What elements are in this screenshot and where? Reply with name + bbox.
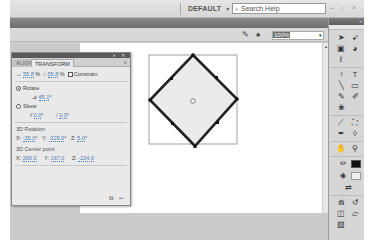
brush-tool-icon[interactable]: ✐ bbox=[349, 92, 361, 102]
selected-diamond-shape[interactable] bbox=[140, 42, 244, 148]
eyedropper-tool-icon[interactable]: ✒ bbox=[335, 129, 347, 139]
3d-center-x-field[interactable]: 269.0 bbox=[23, 155, 37, 162]
3d-center-z-field[interactable]: -224.0 bbox=[78, 155, 94, 162]
bone-tool-icon[interactable]: ⟋ bbox=[335, 118, 347, 128]
divider bbox=[331, 67, 363, 68]
3d-center-row: X: 269.0 Y: 167.0 Z: -224.0 bbox=[16, 155, 94, 161]
zoom-value: 100% bbox=[273, 32, 290, 38]
degree-label: ° bbox=[64, 135, 66, 141]
smooth-icon[interactable]: ↺ bbox=[349, 198, 361, 208]
separator bbox=[180, 3, 181, 15]
paint-bucket-tool-icon[interactable]: ⛶ bbox=[349, 118, 361, 128]
z-label: Z: bbox=[71, 135, 76, 141]
panel-menu-icon[interactable]: ≡ bbox=[124, 59, 127, 65]
lasso-tool-icon[interactable]: ℓ bbox=[335, 55, 347, 65]
3d-rotation-tool-icon[interactable]: ◕ bbox=[349, 44, 361, 54]
straighten-icon[interactable]: ▱ bbox=[349, 209, 361, 219]
3d-rotation-y-field[interactable]: -229.0 bbox=[49, 135, 65, 142]
x-label: X: bbox=[16, 155, 21, 161]
constrain-checkbox[interactable] bbox=[68, 72, 73, 77]
edit-scene-icon[interactable]: ♠ bbox=[256, 30, 260, 39]
scale-row: ↔ 55.8 % ↕ 55.8 % Constrain bbox=[16, 71, 97, 77]
skew-radio[interactable] bbox=[16, 104, 21, 109]
rotate-icon: ⊿ bbox=[32, 94, 37, 100]
chevron-down-icon: ▼ bbox=[225, 6, 230, 12]
tab-transform[interactable]: TRANSFORM bbox=[31, 59, 74, 67]
eraser-tool-icon[interactable]: ◊ bbox=[349, 129, 361, 139]
height-scale-field[interactable]: 55.8 bbox=[48, 71, 59, 78]
y-label: Y: bbox=[42, 135, 47, 141]
degree-label: ° bbox=[41, 112, 43, 118]
zoom-level-select[interactable]: 100% ▾ bbox=[272, 31, 324, 40]
divider bbox=[15, 122, 127, 123]
deco-tool-icon[interactable]: ❀ bbox=[335, 103, 347, 113]
pen-tool-icon[interactable]: ♮ bbox=[335, 70, 347, 80]
degree-label: ° bbox=[35, 135, 37, 141]
title-bar: DEFAULT▼ ⌕Search Help – ▫ × bbox=[10, 0, 364, 18]
workspace-switcher[interactable]: DEFAULT▼ bbox=[188, 5, 230, 12]
3d-rotation-row: X: -25.0° Y: -229.0° Z: 5.0° bbox=[16, 135, 87, 141]
fill-color-icon: ◈ bbox=[337, 171, 349, 181]
rotate-value-row: ⊿ 45.1° bbox=[32, 94, 51, 100]
3d-rotation-z-field[interactable]: 5.0 bbox=[77, 135, 85, 142]
skew-label: Skew bbox=[23, 103, 36, 109]
skew-vertical-icon: ⧸ bbox=[56, 112, 58, 118]
rotate-radio[interactable] bbox=[16, 86, 21, 91]
line-tool-icon[interactable]: ╲ bbox=[335, 81, 347, 91]
subselection-tool-icon[interactable]: ➹ bbox=[349, 33, 361, 43]
fill-color-swatch[interactable] bbox=[351, 172, 361, 180]
tools-header[interactable]: » bbox=[329, 18, 364, 25]
degree-label: ° bbox=[67, 112, 69, 118]
degree-label: ° bbox=[49, 94, 51, 100]
3d-center-y-field[interactable]: 167.0 bbox=[51, 155, 65, 162]
collapse-icon[interactable]: » bbox=[359, 18, 362, 24]
search-placeholder: Search Help bbox=[241, 5, 280, 12]
divider bbox=[331, 156, 363, 157]
skew-values-row: ⫽ 0.0° ⧸ 0.0° bbox=[30, 112, 69, 119]
edit-bar: ✎ ♠ 100% ▾ bbox=[10, 28, 328, 42]
divider bbox=[331, 115, 363, 116]
document-tab-bar bbox=[10, 18, 328, 28]
selection-tool-icon[interactable]: ➤ bbox=[335, 33, 347, 43]
tools-panel: » ➤ ➹ ▣ ◕ ℓ ♮ T ╲ ▭ ✎ ✐ ❀ ⟋ ⛶ ✒ ◊ ✋ ⚲ ✏ … bbox=[328, 18, 364, 240]
transform-point-icon[interactable] bbox=[191, 99, 196, 104]
skew-vertical-field[interactable]: 0.0 bbox=[59, 112, 67, 119]
pencil-tool-icon[interactable]: ✎ bbox=[335, 92, 347, 102]
text-tool-icon[interactable]: T bbox=[349, 70, 361, 80]
options-icon[interactable]: ▨ bbox=[335, 220, 347, 230]
divider bbox=[15, 165, 127, 166]
stroke-color-swatch[interactable] bbox=[351, 160, 361, 168]
skew-option[interactable]: Skew bbox=[16, 103, 36, 109]
snap-to-objects-icon[interactable]: ⋒ bbox=[335, 198, 347, 208]
rectangle-tool-icon[interactable]: ▭ bbox=[349, 81, 361, 91]
height-scale-icon: ↕ bbox=[43, 71, 46, 77]
workspace-label: DEFAULT bbox=[188, 5, 221, 12]
3d-rotation-title: 3D Rotation bbox=[16, 126, 45, 132]
panel-tabs: ALIGN TRANSFORM ≡ bbox=[12, 58, 130, 67]
z-label: Z: bbox=[72, 155, 77, 161]
duplicate-and-reset-icons[interactable]: ⧉ ↩ bbox=[109, 195, 126, 202]
tools-grip[interactable] bbox=[329, 25, 364, 30]
divider bbox=[331, 195, 363, 196]
free-transform-tool-icon[interactable]: ▣ bbox=[335, 44, 347, 54]
width-scale-field[interactable]: 55.8 bbox=[23, 71, 34, 78]
y-label: Y: bbox=[44, 155, 49, 161]
edit-symbols-icon[interactable]: ✎ bbox=[242, 30, 249, 39]
transform-panel: » ✕ ALIGN TRANSFORM ≡ ↔ 55.8 % ↕ 55.8 % … bbox=[11, 52, 131, 206]
object-drawing-icon[interactable]: ◫ bbox=[335, 209, 347, 219]
percent-label: % bbox=[60, 71, 65, 77]
rotate-option[interactable]: Rotate bbox=[16, 85, 39, 91]
zoom-tool-icon[interactable]: ⚲ bbox=[349, 144, 361, 154]
3d-rotation-x-field[interactable]: -25.0 bbox=[23, 135, 36, 142]
percent-label: % bbox=[35, 71, 40, 77]
search-help-input[interactable]: ⌕Search Help bbox=[232, 3, 326, 14]
width-scale-icon: ↔ bbox=[16, 71, 22, 77]
hand-tool-icon[interactable]: ✋ bbox=[335, 144, 347, 154]
search-icon: ⌕ bbox=[235, 5, 239, 12]
x-label: X: bbox=[16, 135, 21, 141]
rotate-field[interactable]: 45.1 bbox=[39, 94, 50, 101]
window-controls[interactable]: – ▫ × bbox=[330, 4, 359, 11]
stroke-color-icon: ✏ bbox=[337, 159, 349, 169]
swap-colors-icon[interactable]: ⇄ bbox=[342, 183, 354, 193]
3d-center-point-title: 3D Center point bbox=[16, 146, 55, 152]
